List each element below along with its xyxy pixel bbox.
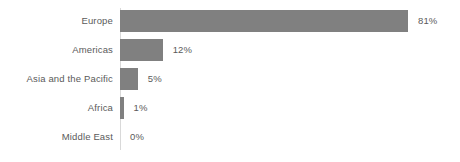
bar-value-label: 1% (134, 97, 148, 119)
bar-value-label: 0% (130, 126, 144, 148)
bar-row: Asia and the Pacific 5% (0, 68, 460, 90)
bar-fill (120, 68, 138, 90)
bar-value-label: 5% (148, 68, 162, 90)
plot-area: Europe 81% Americas 12% Asia and the Pac… (0, 0, 460, 162)
category-label: Europe (0, 10, 113, 32)
bar-row: Africa 1% (0, 97, 460, 119)
bar-value-label: 12% (173, 39, 192, 61)
bar-chart: Europe 81% Americas 12% Asia and the Pac… (0, 0, 460, 162)
bar-fill (120, 39, 163, 61)
category-label: Americas (0, 39, 113, 61)
category-label: Asia and the Pacific (0, 68, 113, 90)
bar-row: Europe 81% (0, 10, 460, 32)
bar-fill (120, 10, 408, 32)
bar-row: Middle East 0% (0, 126, 460, 148)
bar-value-label: 81% (418, 10, 437, 32)
category-label: Middle East (0, 126, 113, 148)
category-label: Africa (0, 97, 113, 119)
bar-row: Americas 12% (0, 39, 460, 61)
bar-fill (120, 97, 124, 119)
